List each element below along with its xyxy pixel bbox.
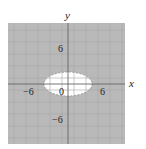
- y-tick-neg6: −6: [52, 115, 63, 125]
- origin-label: 0: [59, 87, 64, 97]
- graph-canvas: [0, 0, 146, 149]
- y-tick-pos6: 6: [58, 44, 63, 54]
- x-tick-pos6: 6: [100, 87, 105, 97]
- y-axis-label: y: [65, 10, 70, 21]
- x-tick-neg6: −6: [23, 87, 34, 97]
- x-axis-label: x: [129, 78, 134, 89]
